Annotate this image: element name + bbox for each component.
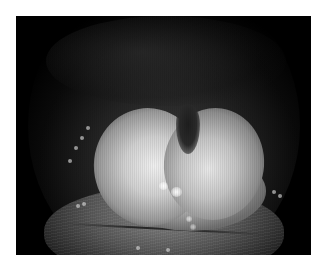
reflection-spot — [278, 194, 282, 198]
figure-caption — [16, 263, 316, 270]
reflection-spot — [76, 204, 80, 208]
specular-highlight — [171, 187, 182, 197]
endoscopic-image — [16, 16, 311, 255]
specular-highlight — [186, 216, 192, 222]
specular-highlight — [190, 224, 196, 230]
reflection-spot — [86, 126, 90, 130]
reflection-spot — [272, 190, 276, 194]
figure — [0, 0, 322, 270]
reflection-spot — [82, 202, 86, 206]
reflection-spot — [74, 146, 78, 150]
reflection-spot — [80, 136, 84, 140]
reflection-spot — [136, 246, 140, 250]
upper-airway-wall — [46, 16, 286, 106]
reflection-spot — [68, 159, 72, 163]
reflection-spot — [166, 248, 170, 252]
specular-highlight — [159, 182, 168, 190]
